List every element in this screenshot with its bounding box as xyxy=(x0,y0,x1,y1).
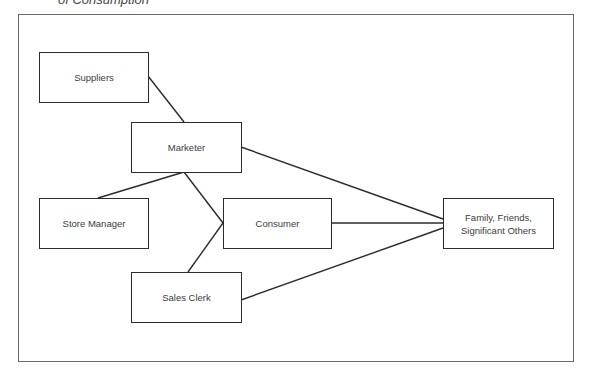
node-label: Consumer xyxy=(256,217,300,230)
edge-marketer-store-manager xyxy=(98,172,184,198)
node-marketer: Marketer xyxy=(131,122,242,173)
edge-marketer-consumer xyxy=(184,172,223,223)
node-label: Marketer xyxy=(168,141,205,154)
edge-suppliers-marketer xyxy=(148,76,184,122)
node-suppliers: Suppliers xyxy=(39,52,149,103)
node-consumer: Consumer xyxy=(223,198,332,249)
node-label: Family, Friends, Significant Others xyxy=(461,211,536,237)
node-store-manager: Store Manager xyxy=(39,198,149,249)
node-label: Sales Clerk xyxy=(162,291,211,304)
edge-sales-clerk-consumer xyxy=(188,223,223,272)
node-family-friends-significant-others: Family, Friends, Significant Others xyxy=(443,198,554,249)
node-label: Store Manager xyxy=(63,217,126,230)
node-sales-clerk: Sales Clerk xyxy=(131,272,242,323)
node-label: Suppliers xyxy=(74,71,114,84)
